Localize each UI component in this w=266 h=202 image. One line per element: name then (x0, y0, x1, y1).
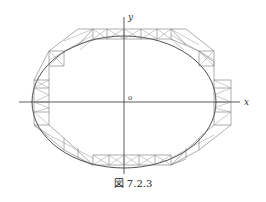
cell-band-left (34, 51, 64, 135)
figure-caption: 図 7.2.3 (0, 175, 266, 190)
ellipse-cover-diagram: y x o (0, 0, 266, 202)
x-axis-label: x (244, 97, 249, 107)
cell-band-diagonals (34, 29, 231, 165)
cell-band-right (199, 51, 231, 125)
origin-label: o (128, 94, 132, 102)
cell-band-bottom (78, 155, 186, 165)
y-axis-label: y (127, 12, 134, 22)
figure-diagram: y x o 図 7.2.3 (0, 0, 266, 202)
